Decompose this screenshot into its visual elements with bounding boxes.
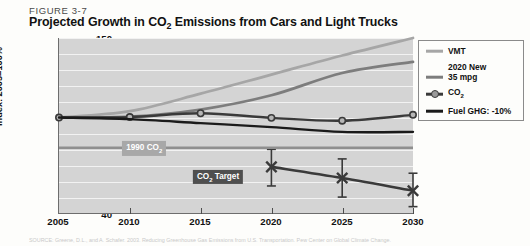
marker-circle-2030 (410, 112, 416, 118)
legend-label-line2: 35 mpg (448, 72, 477, 82)
plot-area: 1990 CO2 CO2 Target (58, 38, 413, 214)
x-axis-tick-label: 2005 (47, 216, 68, 227)
marker-circle-2025 (339, 118, 345, 124)
label-1990-co2: 1990 CO2 (122, 141, 166, 155)
legend-swatch-vmt (426, 50, 443, 53)
marker-circle-2015 (197, 110, 203, 116)
series-line-2020-new-35-mpg (59, 62, 413, 118)
legend-label-co2: CO2 (448, 87, 464, 100)
legend-item-co2: CO2 (419, 86, 523, 102)
label-target-text: CO (197, 172, 209, 181)
x-axis-tick-label: 2020 (260, 216, 281, 227)
label-1990-text: 1990 CO (126, 143, 159, 152)
x-axis-tick-label: 2030 (402, 216, 423, 227)
legend-label-line1: 2020 New (448, 62, 486, 72)
legend-swatch-2020-new-35-mpg (426, 76, 443, 79)
series-line-vmt (59, 38, 413, 118)
figure-title-before: Projected Growth in CO (29, 15, 167, 29)
legend-swatch-fuel-ghg (426, 110, 443, 113)
legend-label-vmt: VMT (448, 46, 466, 57)
x-axis-tick-label: 2025 (331, 216, 352, 227)
legend-item-2020-new-35-mpg: 2020 New 35 mpg (419, 59, 523, 85)
figure-title: Projected Growth in CO2 Emissions from C… (29, 15, 398, 31)
legend-label-2020-new-35-mpg: 2020 New 35 mpg (448, 62, 486, 83)
legend-item-fuel-ghg: Fuel GHG: -10% (419, 103, 523, 119)
figure-source-note: SOURCE: Greene, D.L., and A. Schafer. 20… (29, 237, 524, 243)
label-co2-target: CO2 Target (193, 170, 243, 184)
y-axis-label: Index: 2005=100% (0, 47, 4, 126)
legend-item-vmt: VMT (419, 43, 523, 59)
legend-label-fuel-ghg: Fuel GHG: -10% (448, 106, 511, 117)
series-layer (59, 38, 413, 213)
figure-root: FIGURE 3-7 Projected Growth in CO2 Emiss… (0, 0, 530, 246)
marker-circle-2020 (268, 115, 274, 121)
label-target-after: Target (212, 172, 239, 181)
legend: VMT 2020 New 35 mpg CO2 Fuel GHG: -10% (418, 40, 524, 121)
label-1990-sub: 2 (159, 147, 162, 153)
x-tick-mark (413, 208, 414, 214)
legend-marker-circle-icon (431, 90, 439, 98)
x-axis-tick-label: 2010 (118, 216, 139, 227)
x-axis-tick-label: 2015 (189, 216, 210, 227)
figure-title-after: Emissions from Cars and Light Trucks (171, 15, 397, 29)
